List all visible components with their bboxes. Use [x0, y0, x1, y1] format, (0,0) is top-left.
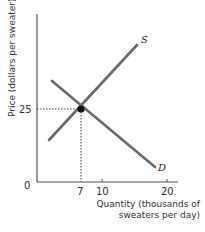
- demand-label: D: [157, 162, 166, 173]
- x-axis-title-line1: Quantity (thousands of: [96, 199, 200, 209]
- x-axis-title-line2: sweaters per day): [119, 210, 200, 220]
- x-tick-label-20: 20: [161, 186, 174, 197]
- supply-demand-chart: S D 25 0 7 10 20 Quantity (thousands of …: [0, 0, 205, 232]
- y-axis-title: Price (dollars per sweater): [7, 0, 17, 117]
- x-tick-label-10: 10: [96, 186, 109, 197]
- y-tick-label-25: 25: [19, 104, 32, 115]
- equilibrium-point: [77, 105, 84, 112]
- supply-curve: [49, 45, 137, 140]
- x-tick-label-7: 7: [77, 186, 83, 197]
- origin-label: 0: [24, 180, 30, 191]
- supply-label: S: [141, 34, 148, 45]
- demand-curve: [52, 81, 155, 167]
